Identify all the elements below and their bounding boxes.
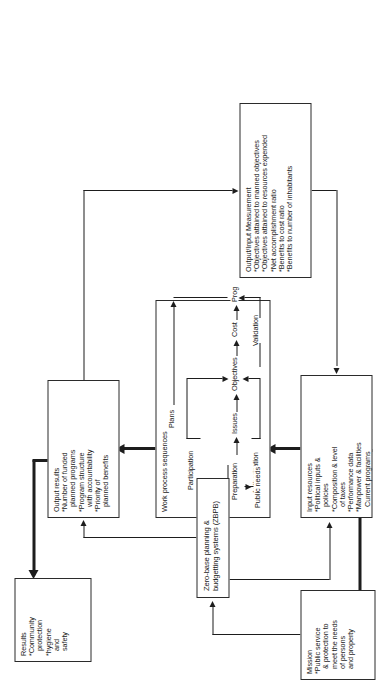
arrowhead-objectives-top-in xyxy=(222,376,228,382)
edge-participation-objectives-h xyxy=(186,379,187,439)
arrowhead-authorization-in xyxy=(245,484,251,490)
edge-preparation-issues xyxy=(236,443,237,455)
node-cost[interactable]: Cost xyxy=(230,321,238,338)
box-output-results-item: planned benefits xyxy=(101,386,109,512)
connector-mission-zbpb-h xyxy=(212,607,213,635)
connector-zbpb-outputresults-h xyxy=(83,526,84,538)
box-measure-item: *Objectives attained to resources expend… xyxy=(260,109,268,272)
connector-measure-input-h xyxy=(336,190,337,366)
node-public-needs[interactable]: Public needs xyxy=(253,466,261,509)
arrowhead-cost-in xyxy=(233,340,239,346)
connector-outputresults-results-h xyxy=(32,460,35,570)
edge-objectives-bottom-v xyxy=(248,378,260,379)
edge-validation-h xyxy=(259,343,260,367)
box-input-item: Current programs xyxy=(363,381,371,512)
box-mission[interactable]: Mission *Public service & protection to … xyxy=(300,590,375,680)
arrowhead-prog-top-in xyxy=(170,301,176,307)
arrowhead-prog-in xyxy=(233,305,239,311)
edge-validation-prog-h xyxy=(259,297,260,318)
arrowhead-objectives-in xyxy=(233,394,239,400)
edge-prog-top-down xyxy=(173,297,227,298)
box-results-item: protection xyxy=(35,584,43,656)
node-participation[interactable]: Participation xyxy=(186,450,194,491)
rotated-figure-layer: Results *Community protection *hygiene a… xyxy=(0,0,391,698)
edge-objectives-up xyxy=(186,378,222,379)
node-prog[interactable]: Prog xyxy=(230,286,238,303)
arrowhead-outputresults-left-in xyxy=(80,520,86,526)
connector-measure-input-v xyxy=(311,190,336,191)
box-results-item: safety xyxy=(60,584,68,656)
box-measure-item: *Benefits to number of inhabitants xyxy=(285,109,293,272)
edge-cost-prog xyxy=(236,311,237,320)
connector-zbpb-input-h xyxy=(329,528,330,580)
node-validation[interactable]: Validation xyxy=(251,314,259,347)
arrowhead-input-left-in xyxy=(326,522,332,528)
connector-outputresults-measure-h xyxy=(83,190,84,380)
node-objectives[interactable]: Objectives xyxy=(230,356,238,392)
connector-input-workproc xyxy=(273,448,300,451)
box-output-input-measurement[interactable]: Output/Input Measurement *Objectives att… xyxy=(239,103,311,278)
box-work-process-title: Work process sequences xyxy=(160,431,168,512)
box-zbpb-title2: budgetting systems (ZBPB) xyxy=(211,485,220,591)
edge-authorization-objectives-h xyxy=(259,379,260,439)
box-mission-item: & protection to xyxy=(321,596,329,674)
edge-validation-v xyxy=(244,297,260,298)
box-output-results[interactable]: Output results *Number of funded planned… xyxy=(47,380,119,518)
edge-plans-prog xyxy=(173,307,174,405)
box-zbpb-title: Zero-base planning & xyxy=(202,485,211,591)
edge-objectives-cost xyxy=(236,346,237,356)
edge-issues-objectives xyxy=(236,400,237,412)
arrowhead-zbpb-in xyxy=(209,601,215,607)
edge-participation-objectives-v xyxy=(186,438,200,439)
box-results[interactable]: Results *Community protection *hygiene a… xyxy=(14,578,91,662)
connector-outputresults-measure-v xyxy=(83,190,232,191)
node-preparation[interactable]: Preparation xyxy=(230,462,238,501)
box-input-item: *Manpower & facilities xyxy=(354,381,362,512)
connector-mission-zbpb-v xyxy=(212,634,300,635)
box-output-results-item: planned programs xyxy=(68,386,76,512)
connector-zbpb-outputresults-v xyxy=(83,537,196,538)
node-issues[interactable]: Issues xyxy=(230,412,238,435)
arrowhead-input-right-in xyxy=(333,368,339,374)
arrowhead-measure-in xyxy=(232,188,238,194)
diagram-canvas: Results *Community protection *hygiene a… xyxy=(0,0,391,698)
arrowhead-issues-in xyxy=(233,437,239,443)
edge-authorization-objectives-v xyxy=(251,438,260,439)
box-mission-item: and property xyxy=(346,596,354,674)
box-zbpb[interactable]: Zero-base planning & budgetting systems … xyxy=(196,478,229,598)
connector-workproc-outputresults xyxy=(122,448,155,451)
box-input-item: policies xyxy=(321,381,329,512)
arrowhead-objectives-bottom-in xyxy=(242,376,248,382)
connector-zbpb-input-v xyxy=(229,579,329,580)
box-input-resources[interactable]: Input resources *Political inputs & poli… xyxy=(300,375,372,518)
node-plans[interactable]: Plans xyxy=(167,409,175,429)
arrowhead-prog-bottom-in xyxy=(238,295,244,301)
